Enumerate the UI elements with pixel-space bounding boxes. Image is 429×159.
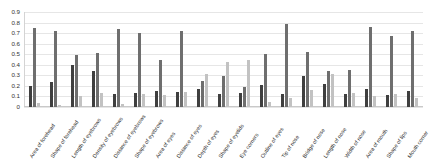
bar-group	[150, 12, 171, 107]
bar-group	[255, 12, 276, 107]
bar	[54, 31, 58, 107]
bar-group	[66, 12, 87, 107]
y-axis-tick-labels: 0.90.80.70.60.50.40.30.20.10	[0, 12, 22, 107]
bar	[163, 95, 167, 107]
bar	[205, 74, 209, 107]
bar-group	[234, 12, 255, 107]
x-axis-tick-label: Tip of nose	[280, 134, 300, 159]
bar	[180, 31, 184, 107]
bar	[33, 28, 37, 107]
bar	[373, 96, 377, 107]
bar	[239, 93, 243, 107]
y-axis-tick-label: 0.5	[0, 51, 20, 57]
bar-group	[276, 12, 297, 107]
bar	[222, 76, 226, 107]
bar	[243, 87, 247, 107]
bar	[138, 33, 142, 107]
bar	[289, 98, 293, 108]
bar	[96, 53, 100, 107]
bar	[285, 24, 289, 107]
bar	[201, 81, 205, 107]
bar	[197, 89, 201, 107]
bar-chart: 0.90.80.70.60.50.40.30.20.10 Area of for…	[0, 0, 429, 159]
bar	[415, 98, 419, 108]
x-axis-tick-label: Eye corners	[238, 132, 259, 159]
bar	[134, 93, 138, 107]
bar-group	[402, 12, 423, 107]
bar	[226, 62, 230, 107]
bar	[369, 27, 373, 107]
bar-group	[45, 12, 66, 107]
bar	[79, 96, 83, 107]
bar	[29, 86, 33, 107]
bar-group	[360, 12, 381, 107]
bar	[113, 94, 117, 107]
bar	[331, 74, 335, 107]
bar	[117, 29, 121, 107]
bar	[365, 89, 369, 107]
bar-groups	[24, 12, 423, 107]
y-axis-tick-label: 0.2	[0, 83, 20, 89]
bar-group	[24, 12, 45, 107]
bar	[218, 94, 222, 107]
bar-group	[318, 12, 339, 107]
bar	[302, 76, 306, 107]
bar-group	[192, 12, 213, 107]
bar	[352, 93, 356, 107]
y-axis-tick-label: 0.1	[0, 93, 20, 99]
bar	[247, 60, 251, 108]
y-axis-tick-label: 0.3	[0, 72, 20, 78]
bar	[71, 65, 75, 107]
x-axis-tick-label: Width of nose	[343, 129, 367, 159]
bar	[306, 52, 310, 107]
y-axis-tick-label: 0.7	[0, 30, 20, 36]
y-axis-tick-label: 0.4	[0, 62, 20, 68]
bar	[281, 94, 285, 107]
bar	[155, 91, 159, 107]
bar	[159, 60, 163, 108]
bar	[407, 91, 411, 107]
x-axis-tick-label: Mouth corner	[406, 130, 429, 159]
bar	[100, 93, 104, 107]
bar	[260, 85, 264, 107]
bar-group	[339, 12, 360, 107]
bar-group	[108, 12, 129, 107]
bar	[344, 94, 348, 107]
bar-group	[87, 12, 108, 107]
x-axis-tick-label: Shape of lips	[385, 130, 408, 159]
bar	[323, 84, 327, 107]
bar	[411, 31, 415, 107]
bar	[310, 90, 314, 107]
bar	[176, 92, 180, 107]
bar-group	[171, 12, 192, 107]
bar	[50, 82, 54, 107]
bar-group	[381, 12, 402, 107]
bar	[142, 94, 146, 107]
y-axis-tick-label: 0.8	[0, 20, 20, 26]
y-axis-tick-label: 0.9	[0, 9, 20, 15]
bar	[184, 92, 188, 107]
x-axis-tick-label: Area of eyes	[154, 131, 176, 159]
bar-group	[213, 12, 234, 107]
y-axis-tick-label: 0.6	[0, 41, 20, 47]
bar	[390, 36, 394, 107]
y-axis-tick-label: 0	[0, 104, 20, 110]
plot-area	[24, 12, 423, 107]
bar	[75, 55, 79, 107]
bar	[348, 70, 352, 107]
bar	[264, 54, 268, 107]
bar	[92, 71, 96, 107]
bar	[327, 71, 331, 107]
bar	[394, 94, 398, 107]
x-axis-tick-label: Depth of eyes	[196, 128, 220, 159]
bar	[386, 95, 390, 107]
bar-group	[297, 12, 318, 107]
bar-group	[129, 12, 150, 107]
x-axis-tick-labels: Area of foreheadShape of foreheadLength …	[24, 107, 423, 159]
